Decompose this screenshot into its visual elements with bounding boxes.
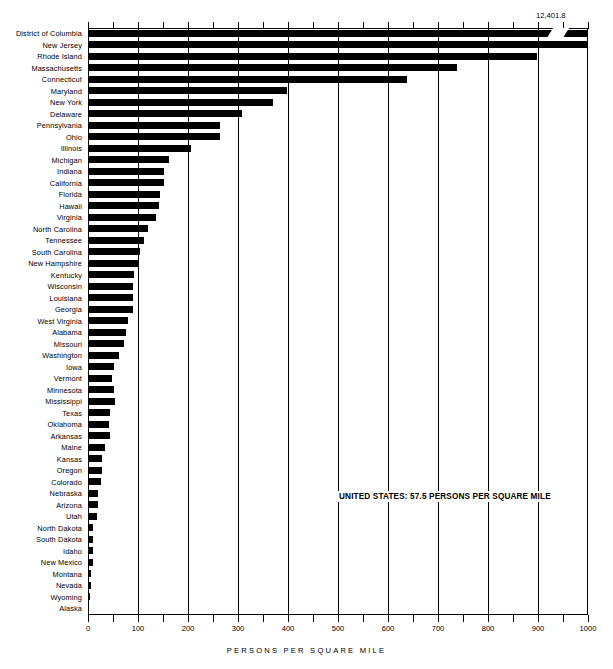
category-label: Oklahoma <box>0 419 82 431</box>
tick-minor <box>413 615 414 622</box>
bar <box>88 398 115 405</box>
category-label: Maine <box>0 442 82 454</box>
bar <box>88 76 407 83</box>
category-label: Michigan <box>0 155 82 167</box>
bar <box>88 409 110 416</box>
bottom-tick-marks <box>88 615 589 622</box>
bar <box>88 283 133 290</box>
gridline <box>538 28 539 615</box>
category-label: Hawaii <box>0 201 82 213</box>
x-tick-label: 100 <box>132 624 145 633</box>
category-label: Oregon <box>0 465 82 477</box>
bar <box>88 524 93 531</box>
category-label: Alaska <box>0 603 82 615</box>
bar <box>88 375 112 382</box>
category-label: South Carolina <box>0 247 82 259</box>
bar <box>88 513 97 520</box>
bar <box>88 225 148 232</box>
category-label: Pennsylvania <box>0 120 82 132</box>
tick-major <box>238 615 239 622</box>
x-tick-label: 800 <box>482 624 495 633</box>
bar <box>88 294 133 301</box>
category-label: Iowa <box>0 362 82 374</box>
bar <box>88 133 220 140</box>
x-tick-label: 400 <box>282 624 295 633</box>
tick-minor <box>463 615 464 622</box>
tick-major <box>288 615 289 622</box>
bar <box>88 145 191 152</box>
category-label: Arkansas <box>0 431 82 443</box>
tick-minor <box>113 615 114 622</box>
x-tick-label: 300 <box>232 624 245 633</box>
bar <box>88 191 160 198</box>
category-label: Wisconsin <box>0 281 82 293</box>
bar <box>88 122 220 129</box>
tick-minor <box>513 615 514 622</box>
x-tick-label: 700 <box>432 624 445 633</box>
plot-area <box>88 28 588 615</box>
tick-minor <box>213 615 214 622</box>
x-tick-label: 500 <box>332 624 345 633</box>
bar <box>88 352 119 359</box>
category-label: Alabama <box>0 327 82 339</box>
category-label: Idaho <box>0 546 82 558</box>
category-label: Virginia <box>0 212 82 224</box>
x-tick-label: 1000 <box>580 624 597 633</box>
category-label: Nevada <box>0 580 82 592</box>
population-density-bar-chart: 12,401.8 District of ColumbiaNew JerseyR… <box>0 0 613 669</box>
bar <box>88 501 98 508</box>
category-label: Kentucky <box>0 270 82 282</box>
category-label: Wyoming <box>0 592 82 604</box>
bar <box>88 168 164 175</box>
tick-minor <box>163 615 164 622</box>
bar <box>88 421 109 428</box>
tick-minor <box>263 615 264 622</box>
category-label: Missouri <box>0 339 82 351</box>
category-label: New Hampshire <box>0 258 82 270</box>
category-label: District of Columbia <box>0 28 82 40</box>
x-tick-label: 900 <box>532 624 545 633</box>
gridline <box>388 28 389 615</box>
category-label: Nebraska <box>0 488 82 500</box>
bar <box>88 202 159 209</box>
category-label: Delaware <box>0 109 82 121</box>
bar <box>88 432 110 439</box>
category-label: Mississippi <box>0 396 82 408</box>
united-states-average-note: UNITED STATES: 57.5 PERSONS PER SQUARE M… <box>337 491 553 502</box>
gridline <box>238 28 239 615</box>
bar <box>88 248 140 255</box>
category-label: Maryland <box>0 86 82 98</box>
category-label: Georgia <box>0 304 82 316</box>
tick-major <box>338 615 339 622</box>
axis-break-value-label: 12,401.8 <box>536 11 566 20</box>
tick-minor <box>563 615 564 622</box>
gridline <box>488 28 489 615</box>
tick-major <box>388 615 389 622</box>
category-label: West Virginia <box>0 316 82 328</box>
bar <box>88 478 101 485</box>
x-tick-label: 600 <box>382 624 395 633</box>
x-axis-title: PERSONS PER SQUARE MILE <box>0 646 613 655</box>
bar <box>88 363 114 370</box>
category-label: Louisiana <box>0 293 82 305</box>
tick-major <box>138 615 139 622</box>
bar <box>88 467 102 474</box>
bar <box>88 179 164 186</box>
tick-minor <box>363 615 364 622</box>
bar <box>88 444 105 451</box>
tick-major <box>538 615 539 622</box>
category-label: Florida <box>0 189 82 201</box>
bar <box>88 340 124 347</box>
bar <box>88 306 133 313</box>
bar <box>88 547 93 554</box>
gridline <box>338 28 339 615</box>
bar <box>88 64 457 71</box>
bar <box>88 99 273 106</box>
category-label: Washington <box>0 350 82 362</box>
bar <box>88 271 134 278</box>
bar <box>88 536 93 543</box>
bar <box>88 559 93 566</box>
category-label: Kansas <box>0 454 82 466</box>
category-label: Montana <box>0 569 82 581</box>
category-label: Indiana <box>0 166 82 178</box>
